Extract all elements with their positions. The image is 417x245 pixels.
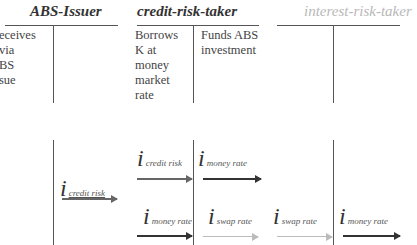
flow-label-swap-rate: iswap rate xyxy=(208,203,252,230)
credit-risk-taker-credit-text: Funds ABS investment xyxy=(201,28,258,58)
flow-label-money-rate: imoney rate xyxy=(339,203,388,230)
arrow-right-icon xyxy=(137,235,192,237)
t-account-top-line xyxy=(277,25,400,26)
account-title-abs-issuer: ABS-Issuer xyxy=(30,3,102,20)
account-title-interest-risk-taker: interest-risk-taker xyxy=(304,3,412,20)
t-account-top-line xyxy=(137,25,259,26)
abs-issuer-debit-text: eceives via BS sue xyxy=(0,28,36,88)
t-account-divider xyxy=(53,25,54,103)
t-account-divider xyxy=(193,25,194,103)
t-account-top-line xyxy=(5,25,118,26)
arrow-right-icon xyxy=(62,198,117,200)
arrow-right-icon xyxy=(277,236,332,237)
abs-issuer-flow-divider xyxy=(53,140,54,245)
interest-risk-taker-flow-divider xyxy=(333,140,334,245)
flow-label-money-rate: imoney rate xyxy=(143,203,192,230)
arrow-right-icon xyxy=(203,236,258,237)
account-title-credit-risk-taker: credit-risk-taker xyxy=(137,3,237,20)
credit-risk-taker-flow-divider xyxy=(193,140,194,245)
arrow-right-icon xyxy=(137,178,192,180)
flow-label-credit-risk: icredit risk xyxy=(137,145,182,172)
flow-label-swap-rate: iswap rate xyxy=(273,203,317,230)
arrow-right-icon xyxy=(343,235,400,237)
arrow-right-icon xyxy=(203,178,261,180)
flow-label-money-rate: imoney rate xyxy=(198,145,247,172)
credit-risk-taker-debit-text: Borrows K at money market rate xyxy=(135,28,178,103)
t-account-divider xyxy=(333,25,334,103)
